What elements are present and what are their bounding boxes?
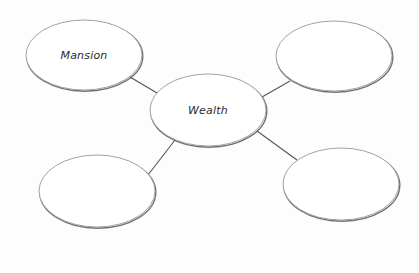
bubble-map-diagram: WealthMansion [0, 0, 419, 273]
bubble-label: Wealth [188, 104, 228, 117]
bubble-shape [283, 148, 399, 220]
connector-bottom-right-to-center [257, 131, 297, 160]
bubble-top-left[interactable]: Mansion [26, 20, 143, 91]
bubble-bottom-left[interactable] [39, 155, 156, 228]
bubble-shape [276, 21, 392, 91]
bubble-center[interactable]: Wealth [150, 74, 267, 147]
connector-bottom-left-to-center [148, 140, 175, 175]
nodes: WealthMansion [26, 20, 400, 228]
connector-top-right-to-center [262, 81, 290, 97]
bubble-label: Mansion [60, 49, 107, 62]
bubble-shape [39, 155, 155, 227]
bubble-bottom-right[interactable] [283, 148, 400, 221]
bubble-top-right[interactable] [276, 21, 393, 92]
connector-top-left-to-center [130, 77, 157, 93]
